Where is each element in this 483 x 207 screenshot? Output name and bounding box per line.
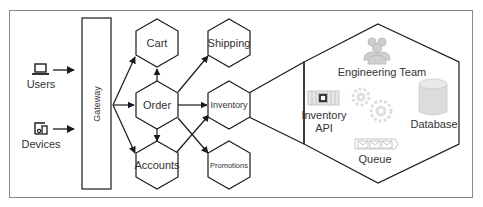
gateway-node: Gateway xyxy=(82,18,111,189)
detail-connector xyxy=(249,62,304,144)
gears-icon xyxy=(353,89,391,121)
database-icon xyxy=(419,79,447,115)
laptop-icon xyxy=(32,64,49,74)
queue-icon xyxy=(355,139,398,149)
gateway-edges xyxy=(113,57,135,153)
service-shipping: Shipping xyxy=(208,19,251,67)
accounts-label: Accounts xyxy=(134,159,180,171)
diagram-canvas: Users Devices Gateway xyxy=(0,0,483,207)
service-accounts: Accounts xyxy=(134,141,180,189)
engineering-team-label: Engineering Team xyxy=(338,66,426,78)
service-order: Order xyxy=(136,81,178,129)
client-users: Users xyxy=(27,64,74,90)
shipping-label: Shipping xyxy=(208,37,251,49)
users-label: Users xyxy=(27,78,56,90)
client-devices: Devices xyxy=(21,123,74,150)
cart-label: Cart xyxy=(147,37,168,49)
service-inventory: Inventory xyxy=(208,81,250,129)
devices-label: Devices xyxy=(21,138,61,150)
inventory-detail: Engineering Team Inventory API xyxy=(301,24,459,183)
inventory-api-label-line1: Inventory xyxy=(301,109,347,121)
api-icon xyxy=(308,91,339,105)
team-icon xyxy=(364,38,390,64)
inventory-api-label-line2: API xyxy=(315,122,333,134)
architecture-diagram: Users Devices Gateway xyxy=(0,0,483,207)
database-label: Database xyxy=(410,118,457,130)
promotions-label: Promotions xyxy=(210,161,248,170)
service-cart: Cart xyxy=(136,19,178,67)
service-promotions: Promotions xyxy=(208,141,250,189)
inventory-label: Inventory xyxy=(210,100,248,110)
gateway-label: Gateway xyxy=(92,86,102,122)
order-label: Order xyxy=(143,99,171,111)
queue-label: Queue xyxy=(358,153,391,165)
devices-icon xyxy=(35,123,47,134)
